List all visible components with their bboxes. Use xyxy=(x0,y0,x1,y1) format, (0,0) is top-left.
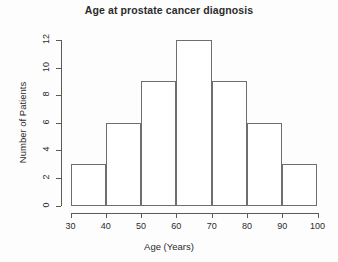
x-axis-line xyxy=(71,213,318,214)
x-tick-mark xyxy=(212,213,213,218)
x-tick-label: 100 xyxy=(305,221,331,231)
x-tick-label: 50 xyxy=(128,221,154,231)
histogram-bar xyxy=(247,123,282,206)
histogram-bar xyxy=(141,81,176,205)
histogram-bar xyxy=(71,164,106,205)
y-axis-line xyxy=(61,40,62,206)
y-tick-label: 4 xyxy=(41,141,51,157)
y-tick-label: 6 xyxy=(41,114,51,130)
y-tick-label: 0 xyxy=(41,197,51,213)
plot-area: 024681012 30405060708090100 xyxy=(0,0,338,262)
x-tick-mark xyxy=(282,213,283,218)
y-tick-label: 12 xyxy=(41,31,51,47)
y-tick-label: 10 xyxy=(41,59,51,75)
y-axis-label: Number of Patients xyxy=(17,82,28,163)
y-tick-mark xyxy=(56,150,61,151)
x-axis-label: Age (Years) xyxy=(0,241,338,252)
y-tick-label: 2 xyxy=(41,169,51,185)
histogram-figure: Age at prostate cancer diagnosis 0246810… xyxy=(0,0,338,262)
x-tick-label: 80 xyxy=(234,221,260,231)
histogram-bar xyxy=(282,164,317,205)
x-tick-label: 30 xyxy=(58,221,84,231)
x-tick-mark xyxy=(106,213,107,218)
y-tick-mark xyxy=(56,206,61,207)
x-tick-mark xyxy=(71,213,72,218)
y-tick-mark xyxy=(56,68,61,69)
y-tick-mark xyxy=(56,95,61,96)
x-tick-label: 40 xyxy=(93,221,119,231)
x-tick-mark xyxy=(176,213,177,218)
x-tick-mark xyxy=(141,213,142,218)
histogram-bar xyxy=(106,123,141,206)
histogram-bar xyxy=(212,81,247,205)
x-tick-label: 70 xyxy=(199,221,225,231)
y-tick-mark xyxy=(56,178,61,179)
y-tick-mark xyxy=(56,40,61,41)
x-tick-mark xyxy=(318,213,319,218)
x-tick-label: 90 xyxy=(269,221,295,231)
x-tick-label: 60 xyxy=(163,221,189,231)
y-tick-mark xyxy=(56,123,61,124)
y-tick-label: 8 xyxy=(41,86,51,102)
x-tick-mark xyxy=(247,213,248,218)
histogram-bar xyxy=(176,40,211,206)
